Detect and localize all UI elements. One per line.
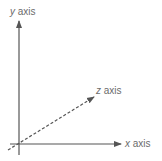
z-axis-word: axis bbox=[104, 85, 122, 96]
y-axis-word: axis bbox=[18, 6, 36, 17]
y-axis-variable: y bbox=[10, 6, 15, 17]
y-axis-label: y axis bbox=[10, 7, 36, 17]
z-axis-variable: z bbox=[96, 85, 101, 96]
z-axis-label: z axis bbox=[96, 86, 122, 96]
x-axis-variable: x bbox=[125, 138, 130, 149]
x-axis-label: x axis bbox=[125, 139, 151, 149]
z-axis-line bbox=[8, 97, 94, 150]
x-axis-word: axis bbox=[133, 138, 151, 149]
coordinate-axes-diagram bbox=[0, 0, 162, 161]
